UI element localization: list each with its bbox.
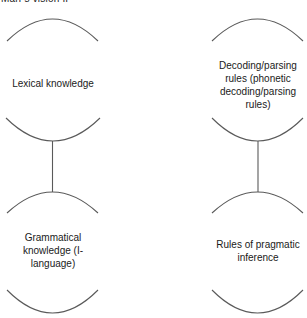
diagram-canvas [0,0,307,318]
node-grammatical-label: Grammatical knowledge (I-language) [10,231,96,270]
node-decoding-label: Decoding/parsing rules (phonetic decodin… [210,59,306,111]
node-lexical-label: Lexical knowledge [2,77,104,90]
node-pragmatic-label: Rules of pragmatic inference [214,238,302,264]
